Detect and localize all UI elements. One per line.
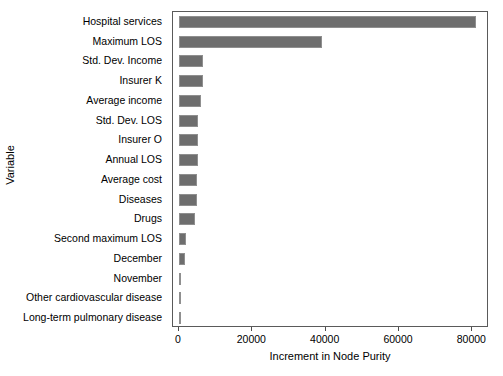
y-axis-tick-label: Second maximum LOS — [54, 232, 162, 244]
bar — [179, 55, 203, 67]
plot-panel — [172, 11, 488, 327]
x-axis-tick-mark — [398, 327, 399, 331]
y-axis-title: Variable — [0, 0, 20, 330]
x-axis-tick-label: 60000 — [383, 333, 412, 345]
y-axis-tick-label: Diseases — [119, 193, 162, 205]
bar — [179, 312, 181, 324]
bar — [179, 36, 322, 48]
bar — [179, 233, 186, 245]
y-axis-title-text: Variable — [4, 145, 16, 185]
bar — [179, 194, 197, 206]
x-axis-title: Increment in Node Purity — [172, 350, 488, 362]
x-axis-tick-label: 20000 — [237, 333, 266, 345]
y-axis-tick-label: Insurer K — [119, 74, 162, 86]
y-axis-tick-label: Annual LOS — [105, 153, 162, 165]
bar — [179, 273, 181, 285]
x-axis-tick-label: 40000 — [310, 333, 339, 345]
bar — [179, 16, 476, 28]
bar — [179, 115, 198, 127]
y-axis-tick-label: November — [114, 272, 162, 284]
y-axis-tick-label: Drugs — [134, 212, 162, 224]
y-axis-tick-label: Average income — [86, 94, 162, 106]
y-axis-tick-label: Other cardiovascular disease — [26, 291, 162, 303]
y-axis-tick-labels: Hospital servicesMaximum LOSStd. Dev. In… — [18, 11, 168, 327]
x-axis-tick-mark — [325, 327, 326, 331]
y-axis-tick-label: Std. Dev. Income — [82, 54, 162, 66]
bar — [179, 253, 185, 265]
x-axis-tick-label: 0 — [175, 333, 181, 345]
bar-series — [173, 12, 487, 326]
bar — [179, 154, 198, 166]
y-axis-tick-label: Average cost — [101, 173, 162, 185]
bar — [179, 75, 203, 87]
y-axis-tick-label: December — [114, 252, 162, 264]
bar-chart: Variable Hospital servicesMaximum LOSStd… — [0, 0, 503, 376]
bar — [179, 174, 197, 186]
x-axis-tick-mark — [178, 327, 179, 331]
bar — [179, 134, 198, 146]
y-axis-tick-label: Long-term pulmonary disease — [23, 311, 162, 323]
x-axis-tick-mark — [471, 327, 472, 331]
x-axis-tick-label: 80000 — [457, 333, 486, 345]
x-axis-tick-mark — [251, 327, 252, 331]
y-axis-tick-label: Std. Dev. LOS — [96, 114, 162, 126]
y-axis-tick-label: Insurer O — [118, 133, 162, 145]
bar — [179, 95, 201, 107]
y-axis-tick-label: Maximum LOS — [93, 35, 162, 47]
y-axis-tick-label: Hospital services — [83, 15, 162, 27]
bar — [179, 292, 181, 304]
bar — [179, 213, 195, 225]
